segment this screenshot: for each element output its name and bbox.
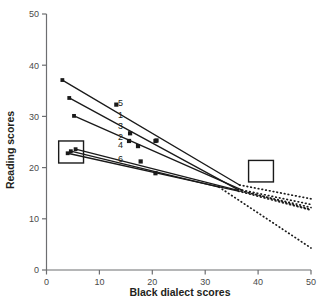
series-label-3: 3 — [118, 121, 123, 131]
x-tick-label: 0 — [44, 277, 49, 287]
y-axis-title: Reading scores — [4, 111, 16, 189]
y-tick-label: 10 — [29, 214, 39, 224]
data-point-marker — [74, 147, 78, 151]
series-labels: 513246 — [118, 98, 123, 164]
x-tick-label: 50 — [306, 277, 316, 287]
data-point-marker — [69, 149, 73, 153]
data-point-marker — [72, 114, 76, 118]
series-label-1: 1 — [118, 110, 123, 120]
series-label-6: 6 — [118, 154, 123, 164]
y-tick-label: 0 — [34, 265, 39, 275]
data-point-marker — [127, 139, 131, 143]
data-point-marker — [153, 171, 157, 175]
y-tick-label: 50 — [29, 9, 39, 19]
y-tick-label: 40 — [29, 61, 39, 71]
data-point-marker — [67, 96, 71, 100]
x-axis-title: Black dialect scores — [130, 286, 231, 298]
series-label-4: 4 — [118, 140, 123, 150]
data-point-marker — [139, 159, 143, 163]
data-point-marker — [128, 131, 132, 135]
y-tick-label: 30 — [29, 112, 39, 122]
y-tick-label: 20 — [29, 163, 39, 173]
data-point-marker — [153, 139, 157, 143]
series-label-5: 5 — [118, 98, 123, 108]
data-point-marker — [60, 78, 64, 82]
chart-background — [0, 0, 328, 303]
x-tick-label: 10 — [94, 277, 104, 287]
data-point-marker — [136, 144, 140, 148]
x-tick-label: 40 — [253, 277, 263, 287]
scatter-regression-chart: 01020304050 01020304050 513246 Black dia… — [0, 0, 328, 303]
